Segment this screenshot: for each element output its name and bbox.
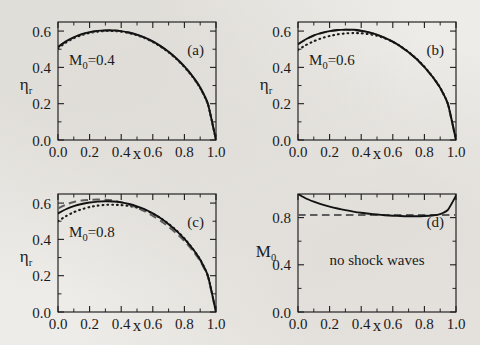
y-tick-label: 0.4 xyxy=(272,60,291,76)
x-tick-label: 0.0 xyxy=(49,144,68,160)
x-tick-label: 1.0 xyxy=(447,144,466,160)
x-tick-label: 0.8 xyxy=(175,316,194,332)
panel-a-plot: 0.00.20.40.60.81.0x0.00.20.40.6ηr(a)M0=0… xyxy=(0,0,240,172)
y-tick-label: 0.0 xyxy=(272,133,291,149)
panel-tag: (c) xyxy=(187,214,204,231)
svg-text:ηr: ηr xyxy=(260,75,273,96)
y-tick-label: 0.6 xyxy=(272,24,291,40)
y-axis-label: ηr xyxy=(20,247,33,268)
panel-annotation: M0=0.4 xyxy=(69,52,115,71)
y-tick-label: 0.2 xyxy=(32,268,51,284)
y-axis-label: ηr xyxy=(260,75,273,96)
x-tick-label: 0.6 xyxy=(383,144,402,160)
x-axis-label: x xyxy=(373,316,382,335)
panel-tag: (d) xyxy=(427,214,445,231)
plot-frame xyxy=(298,22,456,140)
panel-tag: (a) xyxy=(187,42,204,59)
x-tick-label: 0.4 xyxy=(352,316,371,332)
y-tick-label: 0.8 xyxy=(272,210,291,226)
x-tick-label: 0.2 xyxy=(320,144,339,160)
panel-annotation: M0=0.6 xyxy=(309,52,355,71)
panel-d-plot: 0.00.20.40.60.81.0x0.00.40.8M0(d)no shoc… xyxy=(240,172,480,345)
y-tick-label: 0.0 xyxy=(32,133,51,149)
x-tick-label: 0.8 xyxy=(175,144,194,160)
panel-a: 0.00.20.40.60.81.0x0.00.20.40.6ηr(a)M0=0… xyxy=(0,0,240,172)
y-tick-label: 0.2 xyxy=(32,96,51,112)
y-tick-label: 0.0 xyxy=(32,305,51,321)
x-tick-label: 0.6 xyxy=(143,144,162,160)
y-tick-label: 0.4 xyxy=(32,60,51,76)
x-tick-label: 1.0 xyxy=(207,144,226,160)
svg-text:ηr: ηr xyxy=(20,75,33,96)
y-tick-label: 0.6 xyxy=(32,196,51,212)
x-tick-label: 0.2 xyxy=(320,316,339,332)
panel-d: 0.00.20.40.60.81.0x0.00.40.8M0(d)no shoc… xyxy=(240,172,480,345)
panel-tag: (b) xyxy=(427,42,445,59)
x-tick-label: 0.6 xyxy=(143,316,162,332)
x-tick-label: 0.8 xyxy=(415,144,434,160)
x-tick-label: 0.0 xyxy=(49,316,68,332)
x-tick-label: 0.2 xyxy=(80,144,99,160)
x-axis-label: x xyxy=(373,144,382,163)
x-tick-label: 0.8 xyxy=(415,316,434,332)
panel-c-plot: 0.00.20.40.60.81.0x0.00.20.40.6ηr(c)M0=0… xyxy=(0,172,240,345)
x-axis-label: x xyxy=(133,316,142,335)
panel-annotation: M0=0.8 xyxy=(69,224,115,243)
y-tick-label: 0.6 xyxy=(32,24,51,40)
x-tick-label: 0.0 xyxy=(289,316,308,332)
y-tick-label: 0.4 xyxy=(32,232,51,248)
y-axis-label: M0 xyxy=(256,242,276,263)
figure-canvas: 0.00.20.40.60.81.0x0.00.20.40.6ηr(a)M0=0… xyxy=(0,0,480,345)
panel-b-plot: 0.00.20.40.60.81.0x0.00.20.40.6ηr(b)M0=0… xyxy=(240,0,480,172)
x-tick-label: 0.4 xyxy=(112,316,131,332)
x-tick-label: 0.2 xyxy=(80,316,99,332)
svg-text:M0: M0 xyxy=(256,242,276,263)
x-tick-label: 0.6 xyxy=(383,316,402,332)
x-tick-label: 1.0 xyxy=(207,316,226,332)
y-tick-label: 0.0 xyxy=(272,305,291,321)
x-tick-label: 1.0 xyxy=(447,316,466,332)
panel-annotation: no shock waves xyxy=(330,252,425,268)
y-tick-label: 0.2 xyxy=(272,96,291,112)
y-axis-label: ηr xyxy=(20,75,33,96)
x-tick-label: 0.4 xyxy=(112,144,131,160)
svg-text:ηr: ηr xyxy=(20,247,33,268)
panel-b: 0.00.20.40.60.81.0x0.00.20.40.6ηr(b)M0=0… xyxy=(240,0,480,172)
x-axis-label: x xyxy=(133,144,142,163)
panel-c: 0.00.20.40.60.81.0x0.00.20.40.6ηr(c)M0=0… xyxy=(0,172,240,345)
x-tick-label: 0.0 xyxy=(289,144,308,160)
plot-frame xyxy=(58,22,216,140)
x-tick-label: 0.4 xyxy=(352,144,371,160)
plot-frame xyxy=(58,194,216,312)
